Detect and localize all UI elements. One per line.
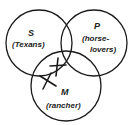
label-s-letter: S [28,28,34,38]
venn-diagram: S (Texans) P (horse- lovers) M (rancher) [0,0,133,125]
label-p-description-line1: (horse- [82,34,109,43]
label-m-letter: M [61,87,69,97]
label-p-letter: P [94,21,101,31]
label-p-description-line2: lovers) [90,45,117,54]
label-s-description: (Texans) [12,40,45,49]
label-m-description: (rancher) [46,101,81,110]
